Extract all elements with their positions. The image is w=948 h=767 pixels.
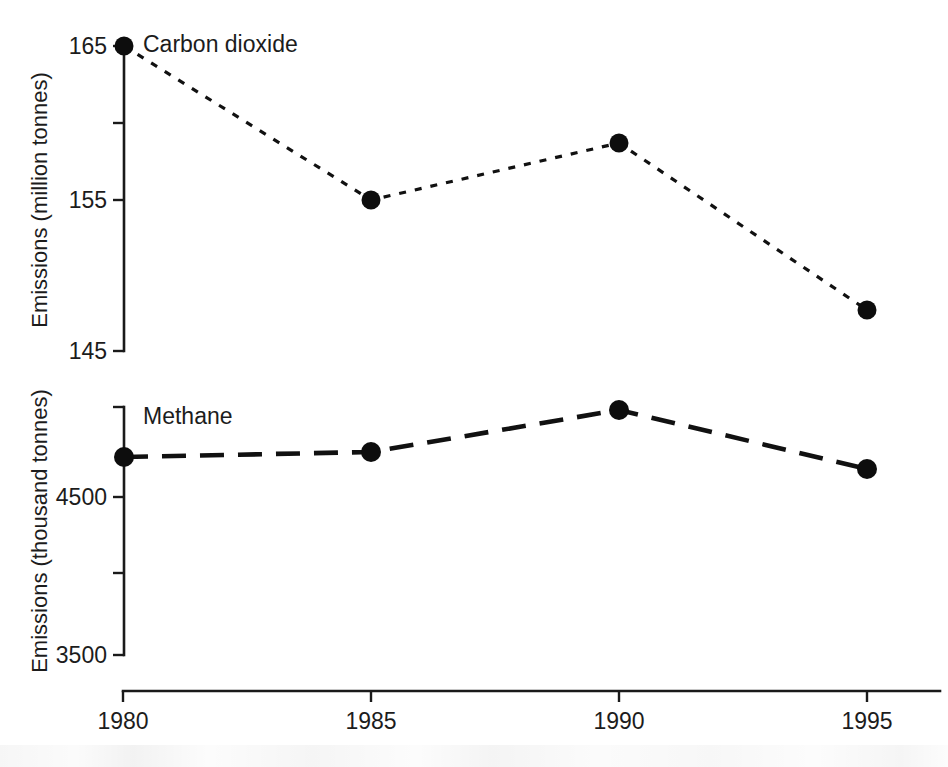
- methane-point-1980: [114, 447, 134, 467]
- bottom-ytick-label-3500: 3500: [56, 642, 107, 668]
- carbon-dioxide-series-label: Carbon dioxide: [143, 31, 298, 57]
- top-ytick-label-155: 155: [69, 187, 107, 213]
- xtick-label-1980: 1980: [97, 708, 148, 734]
- bottom-ytick-label-4500: 4500: [56, 484, 107, 510]
- xtick-label-1995: 1995: [841, 708, 892, 734]
- bottom-panel: 4500 3500 Emissions (thousand tonnes) Me…: [27, 389, 877, 673]
- top-ytick-label-165: 165: [69, 33, 107, 59]
- methane-line: [124, 410, 867, 469]
- xtick-label-1990: 1990: [593, 708, 644, 734]
- methane-point-1995: [857, 459, 877, 479]
- methane-point-1990: [609, 400, 629, 420]
- top-ytick-label-145: 145: [69, 338, 107, 364]
- carbon-dioxide-point-1990: [610, 134, 629, 153]
- carbon-dioxide-line: [124, 46, 867, 310]
- carbon-dioxide-point-1985: [362, 191, 381, 210]
- top-panel: 165 155 145 Emissions (million tonnes) C…: [27, 31, 877, 364]
- methane-point-1985: [361, 442, 381, 462]
- methane-series-label: Methane: [143, 403, 233, 429]
- chart-canvas: 165 155 145 Emissions (million tonnes) C…: [0, 0, 948, 767]
- shared-x-axis: 1980 1985 1990 1995: [97, 691, 940, 734]
- carbon-dioxide-point-1995: [858, 301, 877, 320]
- xtick-label-1985: 1985: [345, 708, 396, 734]
- emissions-figure: 165 155 145 Emissions (million tonnes) C…: [0, 0, 948, 767]
- top-y-axis-title: Emissions (million tonnes): [27, 72, 52, 328]
- bottom-y-axis-title: Emissions (thousand tonnes): [27, 389, 52, 673]
- carbon-dioxide-point-1980: [115, 37, 134, 56]
